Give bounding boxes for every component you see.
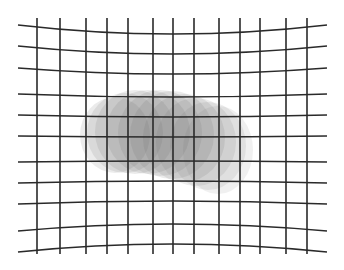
distorted-grid-figure bbox=[0, 0, 344, 270]
figure-canvas bbox=[0, 0, 344, 270]
